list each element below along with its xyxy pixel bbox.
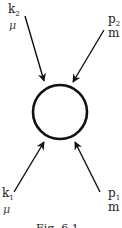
svg-text:k2: k2 [8,2,20,18]
label-k2: k2 μ [8,2,20,32]
feynman-diagram: k2 μ p2 m k1 μ p1 m Fig. 6.1 [0,0,122,228]
svg-text:μ: μ [3,203,10,216]
vertex-circle [33,85,87,139]
label-k1: k1 μ [2,186,14,216]
svg-text:m: m [108,200,120,214]
line-k2 [25,16,44,81]
line-p2 [73,30,104,82]
line-k1 [14,142,44,192]
line-p1 [75,142,100,192]
svg-text:m: m [108,26,120,40]
svg-text:k1: k1 [2,186,14,202]
svg-text:μ: μ [9,19,16,32]
label-p2: p2 m [108,12,120,40]
label-p1: p1 m [108,186,120,214]
figure-caption: Fig. 6.1 [36,222,79,228]
